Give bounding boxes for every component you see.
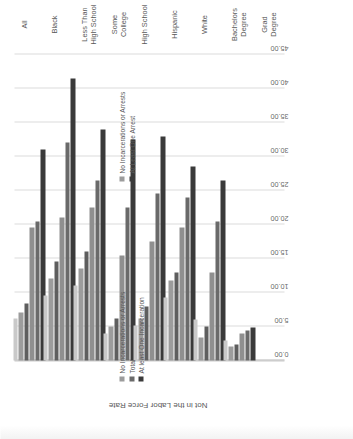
category-label: Hispanic — [170, 0, 179, 51]
bar-group — [253, 55, 286, 360]
tick-label: 0.00 — [274, 349, 288, 358]
axis-title: Not in the Labor Force Rate — [108, 400, 207, 409]
category-label: High School — [140, 0, 149, 51]
plot-area — [14, 55, 284, 361]
legend-item: At least One Incarceration — [137, 291, 144, 381]
legend-swatch — [129, 176, 134, 181]
bar — [29, 227, 34, 360]
legend-item: No Incarcerations or Arrests — [118, 91, 125, 181]
bar-group — [163, 55, 196, 360]
bar — [73, 285, 78, 360]
bar — [163, 297, 168, 360]
bar — [155, 193, 160, 360]
bar-chart: 45.0040.0035.0030.0025.0020.0015.0010.00… — [0, 0, 353, 439]
bar — [215, 221, 220, 360]
bar — [185, 197, 190, 360]
bar-group — [73, 55, 106, 360]
bar — [174, 272, 179, 360]
legend-swatch — [119, 376, 124, 381]
bar — [84, 251, 89, 360]
legend-label: No Incarcerations or Arrests — [118, 291, 125, 373]
tick-label: 20.00 — [270, 213, 288, 222]
bar — [223, 340, 228, 360]
bar — [24, 303, 29, 360]
legend-bottom: No Incarcerations or ArrestsTotalAt leas… — [118, 291, 147, 381]
legend-label: No Incarcerations or Arrests — [118, 91, 125, 173]
scanned-page: 45.0040.0035.0030.0025.0020.0015.0010.00… — [0, 0, 353, 439]
legend-top: No Incarcerations or ArrestsAt Least One… — [118, 91, 137, 181]
gridline — [14, 53, 284, 54]
bar — [193, 319, 198, 360]
tick-label: 15.00 — [270, 247, 288, 256]
category-label: White — [200, 0, 209, 51]
tick-label: 25.00 — [270, 179, 288, 188]
bar — [95, 180, 100, 360]
tick-label: 35.00 — [270, 111, 288, 120]
legend-label: At Least One Arrest — [128, 115, 135, 173]
bar — [245, 330, 250, 360]
bar — [54, 261, 59, 360]
legend-label: At least One Incarceration — [137, 297, 144, 373]
category-label: BachelorsDegree — [230, 0, 247, 51]
bar — [239, 333, 244, 360]
legend-swatch — [129, 376, 134, 381]
bar-group — [223, 55, 256, 360]
bar — [13, 318, 18, 360]
category-label: Less ThanHigh School — [80, 0, 97, 51]
category-label: GradDegree — [260, 0, 277, 51]
tick-label: 10.00 — [270, 281, 288, 290]
bar — [59, 217, 64, 360]
tick-label: 40.00 — [270, 77, 288, 86]
bar — [103, 333, 108, 360]
bar — [18, 312, 23, 360]
bar — [108, 326, 113, 360]
tick-label: 30.00 — [270, 145, 288, 154]
bar — [35, 221, 40, 360]
bar — [198, 337, 203, 360]
bar — [65, 142, 70, 360]
bar — [209, 272, 214, 360]
bar — [43, 295, 48, 360]
category-label: Black — [50, 0, 59, 51]
category-label: All — [20, 0, 29, 51]
bar — [149, 241, 154, 360]
legend-item: At Least One Arrest — [128, 91, 135, 181]
bar-group — [193, 55, 226, 360]
bar-group — [43, 55, 76, 360]
bar — [114, 318, 119, 360]
bar — [168, 280, 173, 360]
bar-group — [13, 55, 46, 360]
legend-swatch — [119, 176, 124, 181]
bar — [234, 344, 239, 360]
bar — [204, 326, 209, 360]
bar — [48, 278, 53, 360]
legend-item: Total — [128, 291, 135, 381]
bar — [228, 346, 233, 360]
category-label: SomeCollege — [110, 0, 127, 51]
bar — [89, 207, 94, 360]
legend-label: Total — [128, 359, 135, 373]
bar — [179, 227, 184, 360]
tick-label: 5.00 — [274, 315, 288, 324]
legend-item: No Incarcerations or Arrests — [118, 291, 125, 381]
bar — [78, 268, 83, 360]
legend-swatch — [138, 376, 143, 381]
